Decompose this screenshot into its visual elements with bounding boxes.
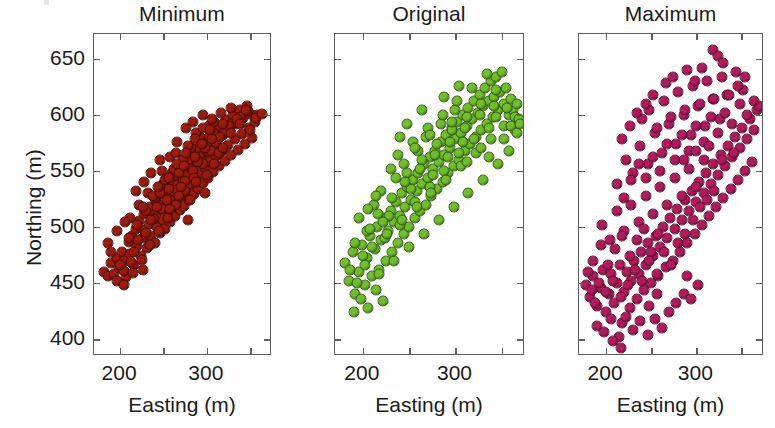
scatter-point <box>685 293 696 304</box>
scatter-point <box>608 275 619 286</box>
scatter-point <box>602 260 613 271</box>
scatter-point <box>606 313 617 324</box>
scatter-point <box>711 201 722 212</box>
scatter-point <box>631 107 642 118</box>
scatter-point <box>628 325 639 336</box>
scatter-point <box>749 96 760 107</box>
scatter-point <box>672 204 683 215</box>
scatter-point <box>732 174 743 185</box>
x-tick-mark <box>651 348 652 354</box>
scatter-point <box>741 109 752 120</box>
scatter-point <box>644 255 655 266</box>
scatter-point <box>734 98 745 109</box>
scatter-point <box>709 186 720 197</box>
x-tick-mark <box>741 34 742 40</box>
scatter-point <box>633 159 644 170</box>
figure-scatter-panels: Northing (m) Minimum40045050055060065020… <box>0 0 775 428</box>
x-tick-mark <box>696 34 697 40</box>
scatter-point <box>651 123 662 134</box>
scatter-point <box>637 275 648 286</box>
scatter-point <box>619 192 630 203</box>
scatter-point <box>638 224 649 235</box>
y-tick-mark <box>756 171 762 172</box>
scatter-point <box>597 219 608 230</box>
scatter-point <box>703 210 714 221</box>
scatter-point <box>741 134 752 145</box>
scatter-point <box>655 181 666 192</box>
scatter-point <box>691 121 702 132</box>
scatter-point <box>727 118 738 129</box>
scatter-point <box>610 244 621 255</box>
scatter-point <box>601 287 612 298</box>
scatter-point <box>611 206 622 217</box>
scatter-point <box>640 98 651 109</box>
scatter-point <box>730 132 741 143</box>
scatter-point <box>720 107 731 118</box>
x-tick-mark <box>651 34 652 40</box>
scatter-point <box>682 64 693 75</box>
y-tick-mark <box>579 171 585 172</box>
scatter-point <box>680 105 691 116</box>
scatter-point <box>665 213 676 224</box>
scatter-point <box>622 280 633 291</box>
y-tick-mark <box>579 283 585 284</box>
y-tick-mark <box>579 115 585 116</box>
scatter-point <box>651 289 662 300</box>
scatter-point <box>667 71 678 82</box>
scatter-point <box>648 152 659 163</box>
scatter-point <box>676 129 687 140</box>
scatter-point <box>709 94 720 105</box>
scatter-point <box>631 293 642 304</box>
x-tick-label: 300 <box>678 361 713 385</box>
scatter-point <box>590 298 601 309</box>
plot-area <box>579 34 762 354</box>
scatter-point <box>673 237 684 248</box>
scatter-point <box>640 172 651 183</box>
scatter-point <box>723 89 734 100</box>
scatter-point <box>678 154 689 165</box>
scatter-point <box>629 264 640 275</box>
scatter-point <box>635 316 646 327</box>
scatter-point <box>666 260 677 271</box>
scatter-point <box>740 165 751 176</box>
scatter-point <box>705 112 716 123</box>
scatter-point <box>676 215 687 226</box>
scatter-point <box>712 170 723 181</box>
scatter-point <box>701 168 712 179</box>
scatter-point <box>702 195 713 206</box>
scatter-point <box>624 121 635 132</box>
x-axis-label: Easting (m) <box>578 393 763 417</box>
scatter-point <box>729 147 740 158</box>
scatter-point <box>718 58 729 69</box>
x-tick-mark <box>606 348 607 354</box>
x-tick-mark <box>741 348 742 354</box>
scatter-point <box>615 291 626 302</box>
x-tick-label: 200 <box>588 361 623 385</box>
y-tick-mark <box>756 227 762 228</box>
scatter-point <box>725 183 736 194</box>
scatter-point <box>617 134 628 145</box>
scatter-point <box>626 174 637 185</box>
scatter-point <box>666 112 677 123</box>
scatter-point <box>648 208 659 219</box>
y-tick-mark <box>756 115 762 116</box>
y-tick-mark <box>756 59 762 60</box>
scatter-point <box>737 123 748 134</box>
scatter-point <box>658 96 669 107</box>
scatter-point <box>702 76 713 87</box>
scatter-point <box>747 156 758 167</box>
scatter-point <box>635 141 646 152</box>
scatter-point <box>716 154 727 165</box>
scatter-point <box>658 246 669 257</box>
scatter-point <box>732 80 743 91</box>
scatter-point <box>669 172 680 183</box>
scatter-point <box>694 98 705 109</box>
scatter-point <box>691 145 702 156</box>
plot-frame <box>578 33 763 355</box>
scatter-point <box>749 125 760 136</box>
x-tick-mark <box>606 34 607 40</box>
scatter-point <box>620 154 631 165</box>
scatter-point <box>664 307 675 318</box>
scatter-point <box>669 224 680 235</box>
y-tick-mark <box>579 227 585 228</box>
